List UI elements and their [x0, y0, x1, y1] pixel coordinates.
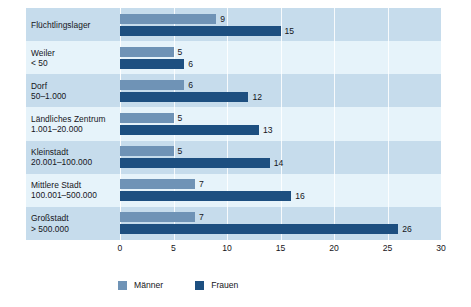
category-label-line1: Kleinstadt	[31, 147, 68, 157]
bar-chart: FlüchtlingslagerWeiler< 50Dorf50–1.000Lä…	[0, 0, 471, 307]
bar-frauen	[120, 26, 281, 36]
x-axis-tick: 5	[171, 243, 176, 253]
legend-item-frauen[interactable]: Frauen	[195, 280, 238, 290]
bar-value-label: 15	[285, 26, 295, 36]
legend-label: Frauen	[211, 280, 238, 290]
bar-frauen	[120, 158, 270, 168]
plot-area: FlüchtlingslagerWeiler< 50Dorf50–1.000Lä…	[26, 8, 441, 240]
bar-value-label: 5	[178, 113, 183, 123]
bar-frauen	[120, 191, 291, 201]
bar-value-label: 12	[252, 92, 262, 102]
bar-value-label: 5	[178, 146, 183, 156]
category-label-line2: < 50	[31, 58, 55, 68]
x-axis-tick: 25	[383, 243, 393, 253]
category-label-line2: 20.001–100.000	[31, 157, 92, 167]
bar-value-label: 13	[263, 125, 273, 135]
bar-series-container: 91556612513514716726	[120, 8, 441, 240]
bar-maenner	[120, 80, 184, 90]
category-label: Dorf50–1.000	[31, 81, 66, 101]
x-axis: 051015202530	[120, 243, 441, 261]
bar-frauen	[120, 224, 398, 234]
category-label: Mittlere Stadt100.001–500.000	[31, 180, 97, 200]
bar-value-label: 7	[199, 179, 204, 189]
chart-legend: MännerFrauen	[118, 278, 238, 292]
bar-value-label: 6	[188, 59, 193, 69]
bar-value-label: 9	[220, 14, 225, 24]
x-axis-tick: 10	[222, 243, 232, 253]
category-label: Ländliches Zentrum1.001–20.000	[31, 114, 105, 134]
bar-maenner	[120, 146, 174, 156]
x-axis-tick: 0	[118, 243, 123, 253]
category-label-line2: > 500.000	[31, 223, 69, 233]
category-label-line1: Mittlere Stadt	[31, 180, 81, 190]
bar-frauen	[120, 59, 184, 69]
category-label: Großstadt> 500.000	[31, 213, 69, 233]
legend-item-maenner[interactable]: Männer	[118, 280, 163, 290]
category-label-line2: 1.001–20.000	[31, 124, 105, 134]
category-label: Flüchtlingslager	[31, 19, 90, 29]
category-label-line1: Ländliches Zentrum	[31, 114, 105, 124]
legend-swatch-icon	[195, 281, 204, 290]
gridline	[441, 8, 442, 240]
legend-swatch-icon	[118, 281, 127, 290]
category-label: Kleinstadt20.001–100.000	[31, 147, 92, 167]
bar-value-label: 5	[178, 47, 183, 57]
x-axis-tick: 15	[276, 243, 286, 253]
category-label-line2: 100.001–500.000	[31, 190, 97, 200]
category-label-line1: Flüchtlingslager	[31, 19, 90, 29]
category-label-line1: Dorf	[31, 81, 47, 91]
bar-value-label: 26	[402, 224, 412, 234]
x-axis-tick: 20	[329, 243, 339, 253]
bar-value-label: 16	[295, 191, 305, 201]
bar-maenner	[120, 212, 195, 222]
bar-maenner	[120, 14, 216, 24]
bar-frauen	[120, 125, 259, 135]
category-label-line2: 50–1.000	[31, 91, 66, 101]
bar-maenner	[120, 113, 174, 123]
bar-frauen	[120, 92, 248, 102]
legend-label: Männer	[134, 280, 163, 290]
bar-maenner	[120, 47, 174, 57]
bar-maenner	[120, 179, 195, 189]
bar-value-label: 6	[188, 80, 193, 90]
category-label-line1: Weiler	[31, 48, 55, 58]
x-axis-tick: 30	[436, 243, 446, 253]
category-label-line1: Großstadt	[31, 213, 69, 223]
bar-value-label: 14	[274, 158, 284, 168]
category-label: Weiler< 50	[31, 48, 55, 68]
bar-value-label: 7	[199, 212, 204, 222]
